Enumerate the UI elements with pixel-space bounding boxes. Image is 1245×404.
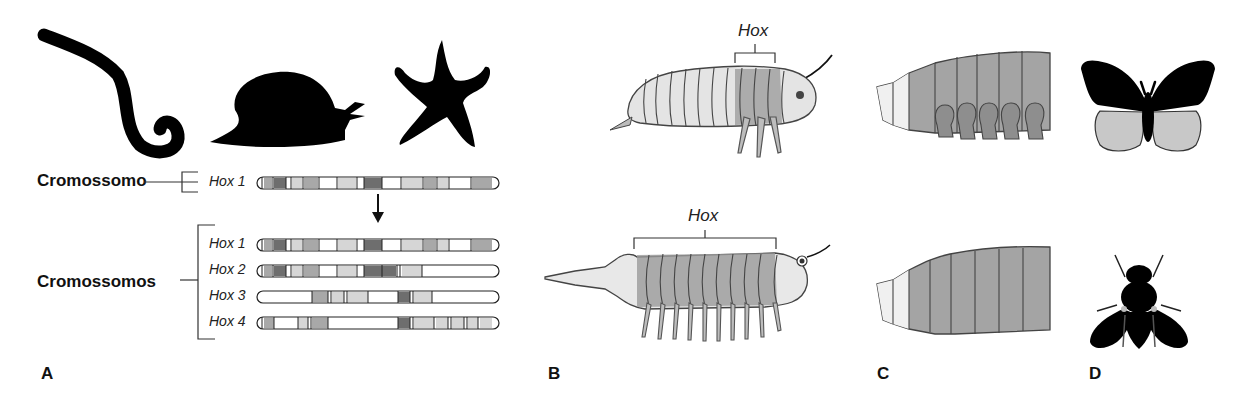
arthropod-many-legs bbox=[545, 245, 845, 355]
hox3-label: Hox 3 bbox=[209, 287, 246, 303]
hox1-label: Hox 1 bbox=[209, 235, 246, 251]
hox2-label: Hox 2 bbox=[209, 261, 246, 277]
panel-label-a: A bbox=[41, 364, 53, 384]
ancestral-chromosome bbox=[256, 176, 506, 192]
abdomen-with-prolegs bbox=[875, 45, 1055, 155]
worm-icon bbox=[40, 25, 160, 155]
hox4-label: Hox 4 bbox=[209, 313, 246, 329]
hox2-chromosome bbox=[256, 264, 506, 280]
hox4-chromosome bbox=[256, 316, 506, 332]
top-hox-label: Hox bbox=[738, 21, 768, 41]
panel-label-b: B bbox=[548, 364, 560, 384]
abdomen-without-legs bbox=[875, 242, 1055, 352]
bottom-hox-label: Hox bbox=[688, 206, 718, 226]
ancestral-hox-label: Hox 1 bbox=[209, 173, 246, 189]
down-arrow-icon bbox=[371, 194, 385, 224]
panel-label-c: C bbox=[877, 364, 889, 384]
multiple-chromosomes-label: Cromossomos bbox=[37, 272, 156, 292]
hox1-chromosome bbox=[256, 238, 506, 254]
butterfly-icon bbox=[1078, 57, 1218, 157]
single-chromosome-label: Cromossomo bbox=[37, 171, 147, 191]
single-bracket bbox=[144, 172, 204, 202]
arthropod-few-legs bbox=[610, 55, 850, 165]
snail-icon bbox=[205, 70, 365, 160]
panel-label-d: D bbox=[1089, 364, 1101, 384]
starfish-icon bbox=[385, 35, 505, 155]
hox3-chromosome bbox=[256, 290, 506, 306]
fly-icon bbox=[1085, 247, 1225, 367]
